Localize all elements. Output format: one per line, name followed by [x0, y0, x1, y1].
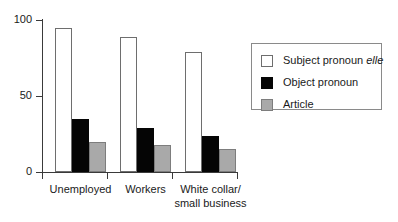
legend-label-subject-pronoun: Subject pronoun elle [283, 54, 383, 67]
bar [72, 119, 89, 172]
x-tick [237, 173, 238, 179]
legend-label-article: Article [283, 98, 314, 111]
x-tick [172, 173, 173, 179]
bar [219, 149, 236, 172]
y-tick-label: 0 [26, 165, 32, 178]
bar [154, 145, 171, 172]
chart-figure: 050100 UnemployedWorkersWhite collar/ sm… [0, 0, 398, 222]
legend-item-object-pronoun: Object pronoun [261, 74, 381, 91]
legend-swatch-subject-pronoun [261, 55, 273, 67]
plot-area [42, 20, 237, 172]
y-tick-label: 50 [20, 89, 32, 102]
x-tick-label: White collar/ small business [171, 182, 250, 210]
bar [137, 128, 154, 172]
legend-item-subject-pronoun: Subject pronoun elle [261, 52, 381, 69]
legend-swatch-article [261, 99, 273, 111]
y-tick-label: 100 [14, 13, 32, 26]
bar [120, 37, 137, 172]
chart-legend: Subject pronoun elle Object pronoun Arti… [251, 43, 382, 110]
bar [55, 28, 72, 172]
legend-swatch-object-pronoun [261, 77, 273, 89]
bar [89, 142, 106, 172]
x-tick [107, 173, 108, 179]
x-tick [42, 173, 43, 179]
x-axis-line [42, 172, 238, 173]
legend-item-article: Article [261, 96, 381, 113]
legend-label-object-pronoun: Object pronoun [283, 76, 358, 89]
bar [202, 136, 219, 172]
bar [185, 52, 202, 172]
